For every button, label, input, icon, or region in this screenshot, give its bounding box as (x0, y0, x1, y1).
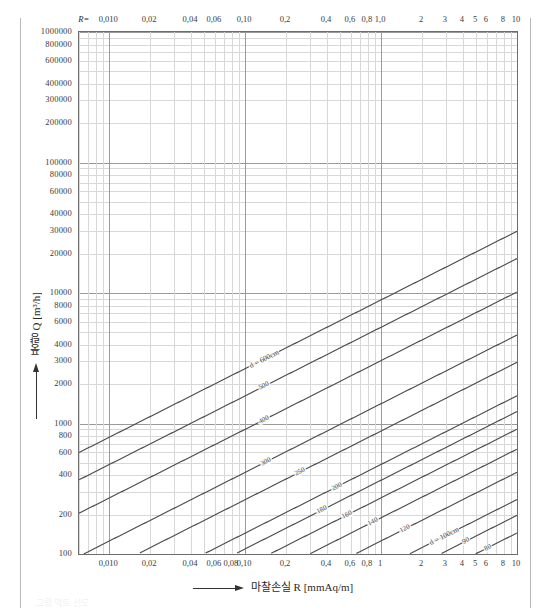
x-axis-tick-label-bottom: 6 (484, 558, 488, 568)
x-axis-tick-label-bottom: 0,2 (280, 558, 291, 568)
page-border-right (530, 18, 531, 608)
duct-diameter-line (476, 533, 517, 554)
x-axis-tick-label-top: 0,02 (142, 14, 157, 24)
x-axis-tick-label-top: 10 (512, 14, 521, 24)
x-axis-tick-label-top: 0,2 (280, 14, 291, 24)
x-axis-tick-label-top: 2 (419, 14, 423, 24)
y-axis-caption-text: 풍량 Q [m³/h] (31, 292, 42, 355)
y-axis-tick-label: 20000 (50, 248, 72, 258)
chart-plot-area: d = 600cm500400300250200180160140120d = … (78, 31, 518, 555)
y-axis-tick-label: 100000 (45, 157, 72, 167)
x-axis-tick-labels-top: R= 0,0100,020,040,060,100,20,40,60,81,02… (78, 14, 516, 28)
x-axis-arrow-icon (193, 585, 245, 591)
y-axis-tick-label: 30000 (50, 225, 72, 235)
x-axis-tick-label-bottom: 0,8 (362, 558, 373, 568)
duct-diameter-line (79, 259, 517, 480)
x-axis-tick-label-bottom: 8 (501, 558, 505, 568)
y-axis-tick-label: 400000 (45, 78, 72, 88)
x-axis-tick-label-bottom: 0,010 (99, 558, 118, 568)
x-axis-tick-label-top: 0,6 (345, 14, 356, 24)
x-axis-tick-label-top: 3 (443, 14, 447, 24)
y-axis-tick-label: 40000 (50, 208, 72, 218)
x-axis-tick-label-top: 6 (484, 14, 488, 24)
y-axis-tick-label: 1000000 (41, 26, 72, 36)
duct-diameter-line (310, 449, 517, 553)
y-axis-tick-label: 200000 (45, 117, 72, 127)
x-axis-tick-label-bottom: 5 (473, 558, 477, 568)
duct-diameter-line (206, 396, 517, 553)
x-axis-tick-label-bottom: 1 (378, 558, 382, 568)
y-axis-tick-label: 800 (59, 430, 72, 440)
y-axis-tick-label: 600 (59, 447, 72, 457)
x-axis-caption-text: 마찰손실 R [mmAq/m] (251, 581, 353, 593)
y-axis-caption: 풍량 Q [m³/h] (14, 292, 58, 419)
y-axis-tick-label: 400 (59, 469, 72, 479)
y-axis-tick-label: 60000 (50, 186, 72, 196)
y-axis-tick-label: 300000 (45, 94, 72, 104)
x-axis-tick-label-bottom: 0,10 (237, 558, 252, 568)
x-axis-tick-label-top: 0,8 (362, 14, 373, 24)
x-axis-tick-label-bottom: 0,6 (345, 558, 356, 568)
x-axis-tick-label-top: 5 (473, 14, 477, 24)
x-axis-tick-label-top: 0,10 (237, 14, 252, 24)
x-axis-tick-label-bottom: 0,02 (142, 558, 157, 568)
x-axis-tick-label-top: 0,010 (99, 14, 118, 24)
y-axis-tick-label: 100 (59, 548, 72, 558)
x-axis-tick-labels-bottom: 0,0100,020,040,060,080,100,20,40,60,8123… (78, 556, 516, 572)
x-axis-tick-label-bottom: 0,06 (206, 558, 221, 568)
y-axis-tick-label: 80000 (50, 169, 72, 179)
page-ghost-caption: 그림 덕트 선도 (36, 596, 89, 609)
x-axis-tick-label-top: 4 (460, 14, 464, 24)
y-axis-tick-label: 200 (59, 509, 72, 519)
x-axis-tick-label-bottom: 4 (460, 558, 464, 568)
grid-line-major-x (517, 32, 518, 554)
r-equals-label: R= (78, 14, 89, 24)
x-axis-caption: 마찰손실 R [mmAq/m] (0, 578, 546, 594)
duct-diameter-line (79, 292, 517, 513)
x-axis-tick-label-top: 0,4 (321, 14, 332, 24)
y-axis-arrow-icon (33, 363, 39, 419)
y-axis-tick-label: 800000 (45, 39, 72, 49)
x-axis-tick-label-top: 8 (501, 14, 505, 24)
x-axis-tick-label-bottom: 2 (419, 558, 423, 568)
x-axis-tick-label-bottom: 3 (443, 558, 447, 568)
grid-line-major-y (79, 554, 517, 555)
x-axis-tick-label-bottom: 10 (512, 558, 521, 568)
x-axis-tick-label-top: 0,06 (206, 14, 221, 24)
chart-page: 1002004006008001000200030004000600080001… (0, 0, 546, 615)
duct-diameter-line (79, 231, 517, 452)
x-axis-tick-label-bottom: 0,04 (183, 558, 198, 568)
x-axis-tick-label-bottom: 0,4 (321, 558, 332, 568)
x-axis-tick-label-top: 0,04 (183, 14, 198, 24)
x-axis-tick-label-top: 1,0 (375, 14, 386, 24)
y-axis-tick-label: 600000 (45, 55, 72, 65)
